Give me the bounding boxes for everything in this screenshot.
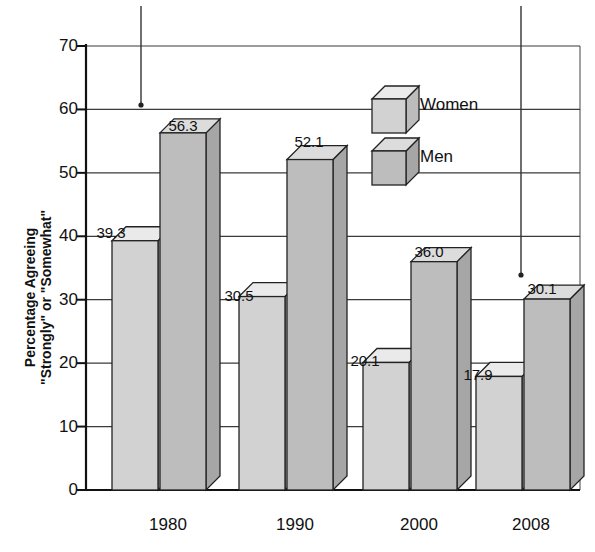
legend-cube-women <box>372 86 419 133</box>
legend-swatches <box>372 86 419 185</box>
y-axis-title-line-1: Percentage Agreeing <box>22 210 38 385</box>
value-label-men-1990: 52.1 <box>283 133 335 150</box>
bar-group <box>112 119 584 490</box>
legend-cube-men <box>372 138 419 185</box>
y-tick-label-50: 50 <box>44 163 78 183</box>
cube-front-face <box>372 99 406 133</box>
value-label-men-2000: 36.0 <box>403 243 455 260</box>
leader-dot <box>518 272 523 277</box>
x-tick-label-1980: 1980 <box>133 515 203 535</box>
y-tick-label-20: 20 <box>44 353 78 373</box>
value-label-men-2008: 30.1 <box>516 280 568 297</box>
y-tick-label-40: 40 <box>44 226 78 246</box>
value-label-women-1980: 39.3 <box>85 224 137 241</box>
bar-front-face <box>363 363 409 490</box>
x-tick-label-2008: 2008 <box>496 515 566 535</box>
y-tick-label-0: 0 <box>44 480 78 500</box>
bar-front-face <box>160 133 206 490</box>
value-label-women-2008: 17.9 <box>452 366 504 383</box>
bar-men-1990 <box>287 146 347 490</box>
y-tick-label-30: 30 <box>44 290 78 310</box>
value-label-women-1990: 30.5 <box>213 287 265 304</box>
leader-dot <box>138 102 143 107</box>
y-tick-label-70: 70 <box>44 36 78 56</box>
chart-canvas <box>0 0 595 552</box>
cube-front-face <box>372 151 406 185</box>
bar-men-2008 <box>524 285 584 490</box>
bar-side-face <box>570 285 584 490</box>
bar-front-face <box>287 160 333 490</box>
bar-men-1980 <box>160 119 220 490</box>
legend-label-women: Women <box>420 95 478 115</box>
x-tick-label-1990: 1990 <box>260 515 330 535</box>
y-axis-ticks <box>77 46 86 490</box>
bar-side-face <box>206 119 220 490</box>
value-label-men-1980: 56.3 <box>157 117 209 134</box>
y-tick-label-10: 10 <box>44 417 78 437</box>
x-tick-label-2000: 2000 <box>384 515 454 535</box>
bar-front-face <box>112 241 158 490</box>
y-tick-label-60: 60 <box>44 99 78 119</box>
legend-label-men: Men <box>420 147 453 167</box>
bar-front-face <box>411 262 457 490</box>
bar-front-face <box>524 299 570 490</box>
bar-side-face <box>333 146 347 490</box>
bar-front-face <box>476 376 522 490</box>
value-label-women-2000: 20.1 <box>339 352 391 369</box>
bar-front-face <box>239 297 285 490</box>
leader-line-left <box>138 6 143 108</box>
bar-chart: Percentage Agreeing "Strongly" or "Somew… <box>0 0 595 552</box>
